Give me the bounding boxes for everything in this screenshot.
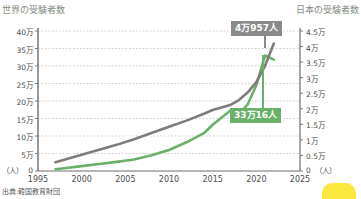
right-axis-tick-label: 3万 [306,73,356,84]
left-axis-tick-label: 30万 [0,61,33,72]
chart-container: 世界の受験者数 日本の受験者数 05万10万15万20万25万30万35万40万… [0,0,361,199]
left-axis-tick-label: 20万 [0,96,33,107]
right-axis-tick-label: 4万 [306,42,356,53]
left-axis-tick-label: 15万 [0,114,33,125]
right-axis-tick-label: 1.5万 [306,119,356,130]
left-axis-unit: （人） [2,165,23,176]
callout-leader-green [262,55,264,109]
right-axis-tick-label: 2.5万 [306,88,356,99]
left-axis-tick-label: 5万 [0,149,33,160]
source-note: 出典:韓国教育財団 [2,186,60,196]
x-axis-tick-label: 2000 [62,175,102,184]
callout-leader-gray [264,35,266,48]
left-axis-tick-label: 10万 [0,131,33,142]
x-axis-tick-label: 2020 [236,175,276,184]
right-axis-tick-label: 0.5万 [306,150,356,161]
series-line-japan [55,44,273,163]
right-axis-tick-label: 1万 [306,135,356,146]
x-axis-tick-label: 2015 [193,175,233,184]
left-axis-tick-label: 25万 [0,79,33,90]
right-axis-unit: （人） [315,165,336,176]
callout-world-value: 33万16人 [230,108,281,123]
decorative-yellow-shape [322,183,356,199]
left-axis-tick-label: 40万 [0,26,33,37]
right-axis-tick-label: 2万 [306,104,356,115]
left-axis-tick-label: 35万 [0,44,33,55]
x-axis-tick-label: 2005 [105,175,145,184]
x-axis-tick-label: 2025 [280,175,320,184]
x-axis-tick-label: 2010 [149,175,189,184]
x-axis-tick-label: 1995 [18,175,58,184]
right-axis-tick-label: 4.5万 [306,26,356,37]
right-axis-tick-label: 3.5万 [306,57,356,68]
gridlines [38,31,300,154]
callout-japan-value: 4万957人 [231,21,282,36]
